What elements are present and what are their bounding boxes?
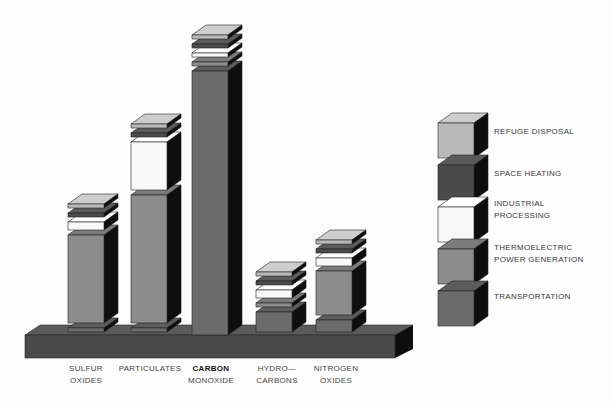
category-label-line: NITROGEN bbox=[296, 363, 376, 375]
legend-label-line: INDUSTRIAL bbox=[494, 198, 550, 210]
legend-label-line: PROCESSING bbox=[494, 210, 550, 222]
bar-nitrogen-oxides bbox=[316, 230, 366, 332]
category-label-nitrogen-oxides: NITROGEN OXIDES bbox=[296, 363, 376, 387]
bar-carbon-monoxide bbox=[192, 25, 242, 335]
legend-label-thermoelectric-power-generation: THERMOELECTRIC POWER GENERATION bbox=[494, 242, 584, 266]
legend-label-line: POWER GENERATION bbox=[494, 254, 584, 266]
legend-label-line: SPACE HEATING bbox=[494, 168, 562, 180]
legend-label-transportation: TRANSPORTATION bbox=[494, 291, 571, 303]
legend-label-space-heating: SPACE HEATING bbox=[494, 168, 562, 180]
bar-segment-industrial-processing bbox=[131, 132, 181, 190]
bar-sulfur-oxides bbox=[68, 194, 118, 332]
bar-segment-transportation bbox=[192, 61, 242, 335]
legend-swatch-industrial-processing bbox=[438, 197, 488, 242]
legend-label-refuge-disposal: REFUGE DISPOSAL bbox=[494, 126, 574, 138]
chart-figure: SULFUR OXIDES PARTICULATES CARBON MONOXI… bbox=[0, 0, 611, 405]
legend-label-industrial-processing: INDUSTRIAL PROCESSING bbox=[494, 198, 550, 222]
legend-swatch-space-heating bbox=[438, 155, 488, 200]
category-label-line: OXIDES bbox=[296, 375, 376, 387]
bar-segment-thermoelectric-power-generation bbox=[68, 225, 118, 323]
bar-particulates bbox=[131, 114, 181, 332]
bars bbox=[68, 25, 366, 335]
category-label-line: OXIDES bbox=[46, 375, 126, 387]
legend-swatch-refuge-disposal bbox=[438, 113, 488, 158]
legend-label-line: TRANSPORTATION bbox=[494, 291, 571, 303]
legend-swatch-transportation bbox=[438, 281, 488, 326]
legend-label-line: THERMOELECTRIC bbox=[494, 242, 584, 254]
bar-hydrocarbons bbox=[256, 262, 306, 332]
bar-segment-thermoelectric-power-generation bbox=[131, 185, 181, 323]
bar-segment-thermoelectric-power-generation bbox=[316, 261, 366, 315]
legend-swatch-thermoelectric-power-generation bbox=[438, 239, 488, 284]
legend-swatches bbox=[438, 113, 488, 326]
legend-label-line: REFUGE DISPOSAL bbox=[494, 126, 574, 138]
base-front-face bbox=[25, 335, 395, 358]
